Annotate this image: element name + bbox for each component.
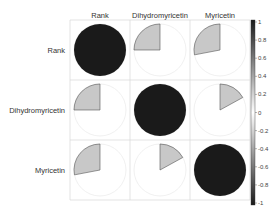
colorbar-tick-label: 0.8 bbox=[258, 37, 267, 43]
cell-dihydromyricetin-rank bbox=[74, 84, 126, 136]
colorbar-tick-label: 0.2 bbox=[258, 91, 267, 97]
colorbar-tick-label: -1 bbox=[258, 200, 264, 206]
colorbar-tick-label: 1 bbox=[258, 19, 262, 25]
cell-dihydromyricetin-myricetin bbox=[194, 84, 246, 136]
row-labels: RankDihydromyricetinMyricetin bbox=[9, 46, 65, 175]
column-label: Dihydromyricetin bbox=[132, 11, 188, 20]
colorbar-tick-label: -0.4 bbox=[258, 146, 269, 152]
cell-rank-myricetin bbox=[194, 24, 246, 76]
colorbar-tick-label: 0.6 bbox=[258, 55, 267, 61]
row-label: Rank bbox=[47, 46, 65, 55]
cell-group bbox=[74, 24, 246, 196]
cell-myricetin-dihydromyricetin bbox=[134, 144, 186, 196]
colorbar-tick-label: -0.2 bbox=[258, 128, 269, 134]
column-label: Myricetin bbox=[205, 11, 235, 20]
colorbar bbox=[251, 20, 255, 205]
cell-myricetin-rank bbox=[74, 144, 126, 196]
row-label: Myricetin bbox=[35, 166, 65, 175]
cell-myricetin-myricetin bbox=[194, 144, 246, 196]
colorbar-tick-label: 0 bbox=[258, 110, 262, 116]
row-label: Dihydromyricetin bbox=[9, 106, 65, 115]
colorbar-tick-label: 0.4 bbox=[258, 73, 267, 79]
cell-rank-dihydromyricetin bbox=[134, 24, 186, 76]
correlation-plot: RankDihydromyricetinMyricetin RankDihydr… bbox=[0, 0, 280, 212]
colorbar-tick-label: -0.6 bbox=[258, 164, 269, 170]
cell-dihydromyricetin-dihydromyricetin bbox=[134, 84, 186, 136]
cell-rank-rank bbox=[74, 24, 126, 76]
column-label: Rank bbox=[91, 11, 109, 20]
column-labels: RankDihydromyricetinMyricetin bbox=[91, 11, 235, 20]
colorbar-ticks: 10.80.60.40.20-0.2-0.4-0.6-0.8-1 bbox=[255, 19, 269, 206]
colorbar-tick-label: -0.8 bbox=[258, 182, 269, 188]
